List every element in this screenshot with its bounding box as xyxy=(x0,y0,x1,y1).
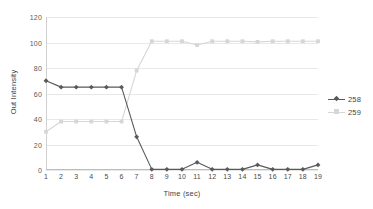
x-tick-label: 4 xyxy=(89,173,93,180)
data-point xyxy=(255,163,260,168)
plot-area xyxy=(46,17,318,170)
data-point xyxy=(225,167,230,172)
data-point xyxy=(210,167,215,172)
x-tick-label: 12 xyxy=(208,173,216,180)
x-tick-label: 19 xyxy=(314,173,322,180)
x-tick-label: 2 xyxy=(59,173,63,180)
x-tick-label: 10 xyxy=(178,173,186,180)
x-tick-label: 11 xyxy=(193,173,201,180)
y-tick-label: 20 xyxy=(34,141,42,148)
line-chart: 020406080100120 123456789101112131415161… xyxy=(0,0,373,209)
x-axis-title: Time (sec) xyxy=(46,189,318,198)
x-tick-label: 7 xyxy=(135,173,139,180)
y-tick-label: 120 xyxy=(30,14,42,21)
x-tick-label: 15 xyxy=(253,173,261,180)
x-tick-label: 13 xyxy=(223,173,231,180)
y-axis-title: Out Intensity xyxy=(9,52,18,132)
x-tick-label: 18 xyxy=(299,173,307,180)
data-point xyxy=(119,85,124,90)
data-point xyxy=(195,43,199,47)
data-point xyxy=(285,167,290,172)
data-point xyxy=(74,120,78,124)
x-tick-label: 6 xyxy=(120,173,124,180)
y-tick-label: 0 xyxy=(38,167,42,174)
series-line xyxy=(46,81,318,170)
data-point xyxy=(271,39,275,43)
data-point xyxy=(241,39,245,43)
data-point xyxy=(104,85,109,90)
x-tick-label: 16 xyxy=(269,173,277,180)
legend-label: 259 xyxy=(348,108,361,117)
legend-label: 258 xyxy=(348,95,361,104)
data-point xyxy=(89,85,94,90)
data-point xyxy=(180,39,184,43)
data-point xyxy=(240,167,245,172)
series-plot xyxy=(46,17,318,170)
series-258 xyxy=(44,78,321,171)
data-point xyxy=(134,134,139,139)
y-tick-label: 40 xyxy=(34,116,42,123)
data-point xyxy=(225,39,229,43)
x-tick-label: 9 xyxy=(165,173,169,180)
data-point xyxy=(120,120,124,124)
data-point xyxy=(165,39,169,43)
x-tick-label: 14 xyxy=(238,173,246,180)
data-point xyxy=(89,120,93,124)
x-tick-label: 8 xyxy=(150,173,154,180)
legend-item-258[interactable]: 258 xyxy=(328,93,373,106)
y-tick-label: 100 xyxy=(30,39,42,46)
data-point xyxy=(164,167,169,172)
data-point xyxy=(149,167,154,172)
data-point xyxy=(270,167,275,172)
data-point xyxy=(44,130,48,134)
data-point xyxy=(150,39,154,43)
x-tick-label: 1 xyxy=(44,173,48,180)
x-tick-label: 17 xyxy=(284,173,292,180)
data-point xyxy=(135,69,139,73)
x-tick-label: 3 xyxy=(74,173,78,180)
series-259 xyxy=(44,39,320,133)
data-point xyxy=(74,85,79,90)
data-point xyxy=(44,78,49,83)
data-point xyxy=(286,39,290,43)
data-point xyxy=(180,167,185,172)
data-point xyxy=(59,120,63,124)
data-point xyxy=(256,40,260,44)
series-line xyxy=(46,41,318,132)
data-point xyxy=(316,163,321,168)
data-point xyxy=(59,85,64,90)
x-tick-label: 5 xyxy=(104,173,108,180)
legend-swatch-icon xyxy=(328,108,345,117)
data-point xyxy=(105,120,109,124)
data-point xyxy=(195,160,200,165)
data-point xyxy=(300,167,305,172)
data-point xyxy=(301,39,305,43)
data-point xyxy=(316,39,320,43)
data-point xyxy=(210,39,214,43)
legend-swatch-icon xyxy=(328,95,345,104)
y-tick-label: 60 xyxy=(34,90,42,97)
legend: 258259 xyxy=(328,93,373,119)
legend-item-259[interactable]: 259 xyxy=(328,106,373,119)
y-tick-label: 80 xyxy=(34,65,42,72)
